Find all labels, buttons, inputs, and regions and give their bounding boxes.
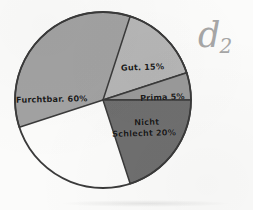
pie-label-nicht-schlecht-line2: Schlecht 20%	[112, 127, 176, 139]
pie-label-prima: Prima 5%	[140, 91, 185, 103]
pie-label-gut: Gut. 15%	[121, 61, 165, 73]
pie-slice-nicht-schlecht[interactable]	[103, 100, 191, 184]
annotation-base-letter: d	[198, 15, 220, 55]
annotation-subscript: 2	[219, 34, 232, 58]
pie-chart-page: Furchtbar. 60% Gut. 15% Prima 5% Nicht S…	[0, 0, 253, 210]
pie-label-nicht-schlecht: Nicht Schlecht 20%	[112, 116, 176, 139]
figure-annotation-d2: d2	[198, 18, 232, 56]
pie-label-furchtbar: Furchtbar. 60%	[16, 93, 88, 105]
